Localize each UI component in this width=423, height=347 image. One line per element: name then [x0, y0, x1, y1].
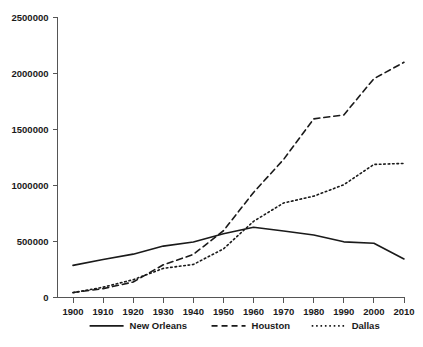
x-axis-tick-label: 1950 — [213, 306, 234, 317]
chart-legend: New OrleansHoustonDallas — [90, 320, 380, 331]
line-chart: 05000001000000150000020000002500000 1900… — [0, 0, 423, 347]
y-axis-tick-label: 1000000 — [12, 180, 49, 191]
y-axis-tick-label: 2500000 — [12, 12, 49, 23]
y-axis-tick-label: 2000000 — [12, 68, 49, 79]
series-line-dallas — [73, 163, 404, 292]
legend-label-new-orleans: New Orleans — [130, 320, 188, 331]
y-axis-tick-label: 500000 — [17, 236, 49, 247]
x-axis-tick-label: 1970 — [273, 306, 294, 317]
x-axis-tick-label: 1990 — [333, 306, 354, 317]
legend-label-houston: Houston — [252, 320, 291, 331]
data-series-group — [73, 62, 404, 292]
y-axis-tick-group: 05000001000000150000020000002500000 — [12, 12, 58, 303]
x-axis-tick-label: 1900 — [62, 306, 83, 317]
x-axis-tick-label: 1920 — [123, 306, 144, 317]
series-line-new-orleans — [73, 227, 404, 265]
chart-container: 05000001000000150000020000002500000 1900… — [0, 0, 423, 347]
x-axis-tick-label: 1960 — [243, 306, 264, 317]
y-axis-tick-label: 1500000 — [12, 124, 49, 135]
x-axis-tick-label: 2010 — [393, 306, 414, 317]
legend-label-dallas: Dallas — [352, 320, 380, 331]
x-axis-tick-label: 2000 — [363, 306, 384, 317]
x-axis-tick-label: 1910 — [93, 306, 114, 317]
y-axis-tick-label: 0 — [43, 292, 48, 303]
x-axis-tick-label: 1980 — [303, 306, 324, 317]
x-axis-tick-label: 1930 — [153, 306, 174, 317]
x-axis-tick-group: 1900191019201930194019501960197019801990… — [62, 298, 414, 317]
x-axis-tick-label: 1940 — [183, 306, 204, 317]
